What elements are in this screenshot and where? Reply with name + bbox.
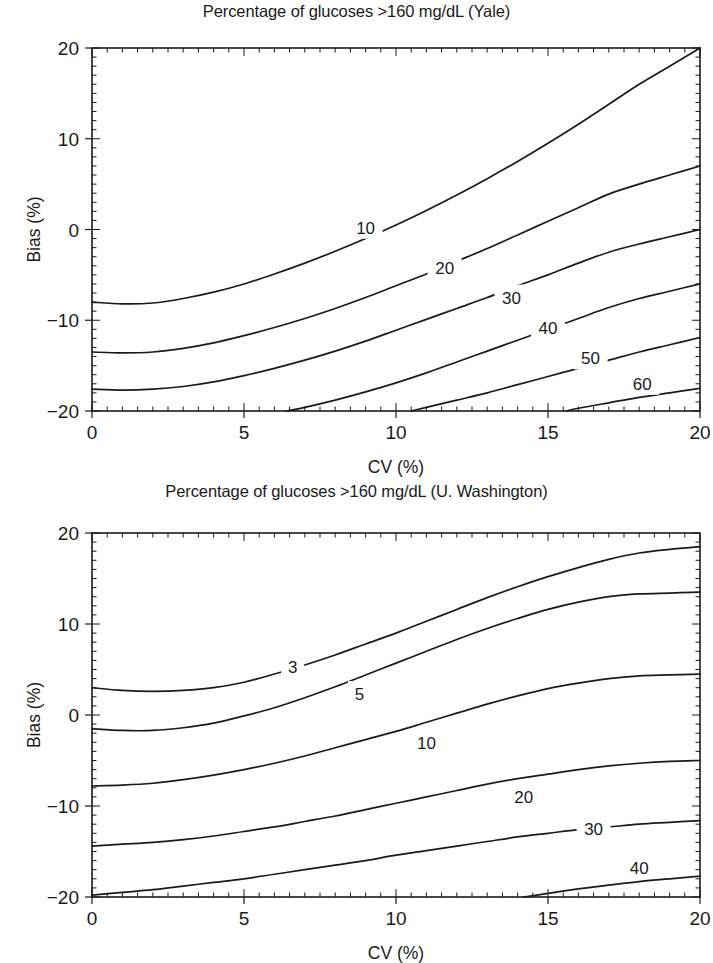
- contour-label: 30: [584, 820, 603, 839]
- y-tick-label: 0: [68, 705, 79, 726]
- contour-label: 40: [630, 859, 649, 878]
- contour-label: 10: [356, 219, 375, 238]
- x-axis-title: CV (%): [368, 457, 424, 477]
- contour-label: 50: [581, 349, 600, 368]
- x-tick-label: 20: [689, 908, 710, 929]
- contour-label: 3: [288, 658, 297, 677]
- y-tick-label: 10: [58, 129, 79, 150]
- contour-line: [92, 821, 700, 896]
- contour-line: [92, 166, 700, 353]
- contour-label: 20: [514, 788, 533, 807]
- contour-line: [92, 48, 700, 304]
- contour-label: 40: [539, 319, 558, 338]
- y-tick-label: −10: [47, 310, 79, 331]
- panel-yale: Percentage of glucoses >160 mg/dL (Yale)…: [0, 0, 713, 480]
- contour-line: [92, 592, 700, 731]
- y-axis-title: Bias (%): [24, 682, 44, 748]
- contour-line: [411, 337, 700, 411]
- x-tick-label: 5: [239, 422, 250, 443]
- x-axis-title: CV (%): [368, 943, 424, 963]
- plot-area-yale: 05101520−20−1001020CV (%)Bias (%)1020304…: [0, 0, 713, 480]
- plot-area-uwashington: 05101520−20−1001020CV (%)Bias (%)3510203…: [0, 480, 713, 963]
- contour-label: 60: [633, 375, 652, 394]
- y-tick-label: −20: [47, 401, 79, 422]
- x-tick-label: 10: [385, 908, 406, 929]
- x-tick-label: 0: [87, 908, 98, 929]
- contour-label: 10: [417, 734, 436, 753]
- y-tick-label: −20: [47, 887, 79, 908]
- y-tick-label: 10: [58, 614, 79, 635]
- y-tick-label: 20: [58, 38, 79, 59]
- y-tick-label: 0: [68, 220, 79, 241]
- contour-line: [92, 547, 700, 692]
- contour-line: [92, 230, 700, 391]
- contour-label: 30: [502, 289, 521, 308]
- x-tick-label: 15: [537, 422, 558, 443]
- contour-label: 5: [355, 685, 364, 704]
- x-tick-label: 15: [537, 908, 558, 929]
- panel-uwashington: Percentage of glucoses >160 mg/dL (U. Wa…: [0, 480, 713, 963]
- x-tick-label: 20: [689, 422, 710, 443]
- y-axis-title: Bias (%): [24, 196, 44, 262]
- contour-label: 20: [435, 259, 454, 278]
- figure-contour-plots: Percentage of glucoses >160 mg/dL (Yale)…: [0, 0, 713, 963]
- y-tick-label: 20: [58, 523, 79, 544]
- x-tick-label: 5: [239, 908, 250, 929]
- x-tick-label: 0: [87, 422, 98, 443]
- contour-line: [92, 761, 700, 847]
- contour-line: [524, 876, 700, 897]
- x-tick-label: 10: [385, 422, 406, 443]
- y-tick-label: −10: [47, 796, 79, 817]
